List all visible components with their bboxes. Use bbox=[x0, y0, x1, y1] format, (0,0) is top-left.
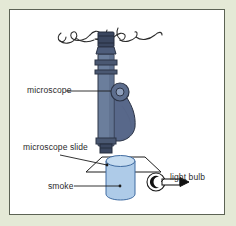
microscope-body-shade bbox=[109, 55, 114, 145]
microscope-objective bbox=[100, 144, 112, 153]
figure-frame: microscope microscope slide smoke light … bbox=[9, 9, 225, 215]
focus-knob-hub bbox=[116, 88, 124, 96]
microscope-nosepiece bbox=[96, 138, 116, 144]
label-light-bulb: light bulb bbox=[170, 173, 205, 182]
microscope-figure bbox=[95, 32, 135, 153]
leader-line-slide bbox=[60, 155, 107, 165]
microscope-arm bbox=[112, 98, 135, 141]
label-microscope-slide: microscope slide bbox=[23, 143, 88, 152]
leader-dot-smoke bbox=[119, 185, 122, 188]
label-microscope: microscope bbox=[27, 86, 71, 95]
smoke-cell-shape bbox=[106, 156, 135, 201]
smoke-cell-top bbox=[106, 156, 135, 167]
leader-dot-slide bbox=[106, 164, 109, 167]
label-smoke: smoke bbox=[48, 182, 74, 191]
diagram-canvas bbox=[10, 10, 224, 214]
microscope-collar-lower bbox=[95, 70, 117, 74]
microscope-collar-upper bbox=[95, 60, 117, 65]
microscope-draw-tube bbox=[96, 47, 116, 54]
microscope-eyepiece bbox=[98, 32, 114, 47]
